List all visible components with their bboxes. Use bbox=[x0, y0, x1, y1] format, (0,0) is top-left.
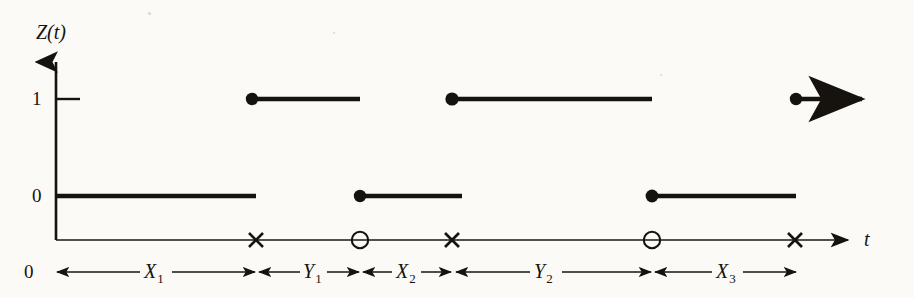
step-segment-x3 bbox=[646, 190, 796, 203]
filled-dot-x3 bbox=[646, 190, 659, 203]
interval-label-x3: X3 bbox=[716, 261, 735, 281]
x-axis-label: t bbox=[864, 229, 870, 249]
interval-sub-y1: 1 bbox=[315, 271, 322, 286]
interval-sub-y2: 2 bbox=[546, 271, 553, 286]
step-segment-x2 bbox=[354, 190, 462, 202]
interval-base-y2: Y bbox=[534, 260, 545, 282]
interval-label-y1: Y1 bbox=[303, 261, 321, 281]
scan-speck bbox=[660, 74, 662, 76]
y-tick-label-1: 1 bbox=[32, 89, 42, 108]
step-segment-y2 bbox=[445, 92, 652, 105]
interval-base-x2: X bbox=[396, 260, 408, 282]
scan-speck bbox=[148, 12, 151, 15]
step-function-chart bbox=[0, 0, 914, 298]
step-segment-final-open bbox=[790, 93, 862, 105]
scan-speck bbox=[333, 32, 335, 34]
interval-base-y1: Y bbox=[303, 260, 314, 282]
interval-sub-x3: 3 bbox=[729, 271, 736, 286]
interval-sub-x1: 1 bbox=[157, 271, 164, 286]
y-axis-label: Z(t) bbox=[36, 22, 66, 42]
interval-sub-x2: 2 bbox=[409, 271, 416, 286]
figure-canvas: Z(t) t 1 0 0 X1 Y1 X2 Y2 X3 bbox=[0, 0, 914, 298]
interval-label-y2: Y2 bbox=[534, 261, 552, 281]
step-segment-y1 bbox=[246, 93, 360, 105]
interval-base-x3: X bbox=[716, 260, 728, 282]
y-tick-label-0: 0 bbox=[32, 186, 42, 205]
origin-label: 0 bbox=[24, 262, 34, 281]
interval-base-x1: X bbox=[144, 260, 156, 282]
filled-dot-final bbox=[790, 93, 802, 105]
filled-dot-x2 bbox=[354, 190, 366, 202]
interval-label-x1: X1 bbox=[144, 261, 163, 281]
filled-dot-y1 bbox=[246, 93, 258, 105]
interval-label-x2: X2 bbox=[396, 261, 415, 281]
filled-dot-y2 bbox=[445, 92, 458, 105]
